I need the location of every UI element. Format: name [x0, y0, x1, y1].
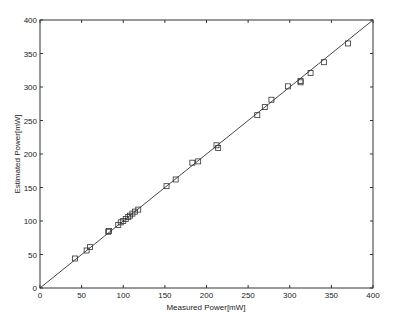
y-tick-label: 400 [24, 16, 38, 25]
y-tick-label: 300 [24, 83, 38, 92]
x-tick-label: 400 [366, 291, 380, 300]
plot-area: 0501001502002503003504000501001502002503… [24, 16, 381, 300]
y-tick-label: 100 [24, 217, 38, 226]
y-tick-label: 0 [33, 284, 38, 293]
x-axis-label: Measured Power[mW] [166, 303, 245, 312]
square-marker [298, 80, 303, 85]
x-tick-label: 250 [241, 291, 255, 300]
reference-line [40, 20, 373, 288]
y-tick-label: 200 [24, 150, 38, 159]
scatter-chart: 0501001502002503003504000501001502002503… [0, 0, 394, 325]
x-tick-label: 350 [325, 291, 339, 300]
x-tick-label: 300 [283, 291, 297, 300]
y-tick-label: 350 [24, 50, 38, 59]
y-tick-label: 150 [24, 184, 38, 193]
x-tick-label: 200 [200, 291, 214, 300]
x-tick-label: 0 [38, 291, 43, 300]
x-tick-label: 50 [77, 291, 86, 300]
x-tick-label: 150 [158, 291, 172, 300]
identity-line [40, 20, 373, 288]
x-tick-label: 100 [117, 291, 131, 300]
y-axis-label: Estimated Power[mW] [13, 114, 22, 193]
y-tick-label: 50 [28, 251, 37, 260]
y-tick-label: 250 [24, 117, 38, 126]
